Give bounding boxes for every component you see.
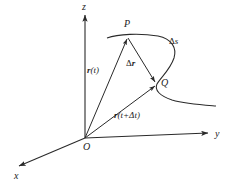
axis-label-z: z xyxy=(82,2,86,12)
diagram-canvas xyxy=(0,0,231,189)
vector-calculus-diagram: z y x O P Q r(t) r(t+Δt) Δr Δs xyxy=(0,0,231,189)
axis-label-y: y xyxy=(215,129,219,139)
vector-r-t-line xyxy=(85,39,127,138)
point-label-origin: O xyxy=(83,142,90,152)
arc-label-delta-s: Δs xyxy=(169,37,178,46)
point-label-p: P xyxy=(124,19,130,29)
x-axis xyxy=(19,138,85,166)
space-curve xyxy=(107,34,216,106)
axis-label-x: x xyxy=(14,171,18,181)
vector-label-r-t: r(t) xyxy=(87,66,99,75)
y-axis xyxy=(85,133,208,138)
vector-label-r-t-plus-dt: r(t+Δt) xyxy=(114,111,140,120)
vector-label-delta-r: Δr xyxy=(126,59,135,68)
point-label-q: Q xyxy=(161,78,168,88)
